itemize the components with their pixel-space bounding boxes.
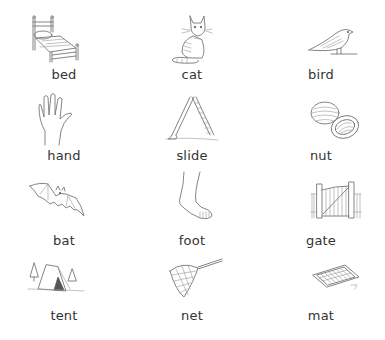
word-label: bat bbox=[0, 233, 128, 248]
word-label: hand bbox=[0, 148, 128, 163]
word-label: gate bbox=[257, 233, 385, 248]
word-label: tent bbox=[0, 308, 128, 323]
card-gate: gate bbox=[257, 170, 385, 255]
foot-icon bbox=[128, 170, 256, 232]
word-label: bird bbox=[257, 67, 385, 82]
gate-icon bbox=[257, 170, 385, 232]
card-nut: nut bbox=[257, 85, 385, 170]
word-label: bed bbox=[0, 67, 128, 82]
word-label: foot bbox=[128, 233, 256, 248]
card-foot: foot bbox=[128, 170, 256, 255]
nut-icon bbox=[257, 85, 385, 147]
card-bed: bed bbox=[0, 0, 128, 85]
word-label: cat bbox=[128, 67, 256, 82]
word-label: mat bbox=[257, 308, 385, 323]
card-cat: cat bbox=[128, 0, 256, 85]
bat-icon bbox=[0, 170, 128, 232]
hand-icon bbox=[0, 85, 128, 147]
picture-word-grid: bed cat bird bbox=[0, 0, 385, 340]
card-mat: mat bbox=[257, 255, 385, 340]
card-bird: bird bbox=[257, 0, 385, 85]
word-label: slide bbox=[128, 148, 256, 163]
bed-icon bbox=[0, 0, 128, 62]
card-hand: hand bbox=[0, 85, 128, 170]
card-tent: tent bbox=[0, 255, 128, 340]
card-bat: bat bbox=[0, 170, 128, 255]
word-label: nut bbox=[257, 148, 385, 163]
bird-icon bbox=[257, 0, 385, 62]
card-net: net bbox=[128, 255, 256, 340]
word-label: net bbox=[128, 308, 256, 323]
card-slide: slide bbox=[128, 85, 256, 170]
slide-icon bbox=[128, 85, 256, 147]
cat-icon bbox=[128, 0, 256, 62]
